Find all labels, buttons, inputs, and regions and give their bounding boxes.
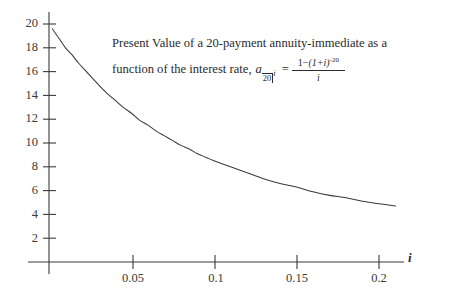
y-tick-label: 14 — [12, 89, 38, 102]
formula-equals: = — [280, 59, 291, 80]
formula-fraction: 1−(1+i)-20 i — [295, 56, 342, 84]
numerator-base: (1+i) — [308, 57, 329, 68]
x-axis-label: i — [408, 250, 412, 266]
x-tick-label: 0.15 — [277, 272, 317, 285]
y-tick-label: 8 — [12, 160, 38, 173]
x-tick-label: 0.1 — [196, 272, 236, 285]
formula-numerator: 1−(1+i)-20 — [295, 56, 342, 70]
chart-figure: 20 18 16 14 12 10 8 6 4 2 0.05 0.1 0.15 … — [0, 0, 451, 308]
formula-denominator: i — [292, 70, 345, 84]
y-tick-label: 4 — [12, 208, 38, 221]
annuity-symbol: a20i — [256, 59, 276, 80]
x-tick-label: 0.2 — [359, 272, 399, 285]
annuity-symbol-term: 20 — [262, 73, 274, 84]
y-tick-label: 10 — [12, 136, 38, 149]
annotation-line-2-prefix: function of the interest rate, — [112, 59, 252, 80]
chart-annotation: Present Value of a 20-payment annuity-im… — [112, 33, 422, 84]
y-tick-label: 20 — [12, 17, 38, 30]
y-tick-label: 12 — [12, 112, 38, 125]
y-tick-label: 6 — [12, 184, 38, 197]
annuity-symbol-rate: i — [273, 63, 275, 84]
annotation-line-1: Present Value of a 20-payment annuity-im… — [112, 33, 422, 54]
numerator-exponent: -20 — [330, 56, 339, 64]
y-tick-label: 18 — [12, 41, 38, 54]
y-tick-label: 2 — [12, 232, 38, 245]
annotation-line-2: function of the interest rate, a20i = 1−… — [112, 56, 422, 84]
x-tick-label: 0.05 — [113, 272, 153, 285]
y-tick-label: 16 — [12, 65, 38, 78]
